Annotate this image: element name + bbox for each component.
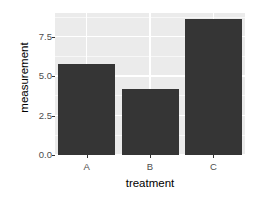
plot-panel xyxy=(55,13,245,155)
bar-a xyxy=(58,64,115,156)
x-tick-label-a: A xyxy=(67,161,107,173)
y-tick-label-0: 0.0 xyxy=(22,150,52,160)
bar-b xyxy=(122,89,179,155)
y-tick-mark-0 xyxy=(52,155,55,156)
x-tick-label-b: B xyxy=(130,161,170,173)
x-tick-label-c: C xyxy=(193,161,233,173)
y-tick-label-1: 2.5 xyxy=(22,111,52,121)
bar-c xyxy=(185,19,242,155)
y-tick-label-3: 7.5 xyxy=(22,32,52,42)
y-tick-label-2: 5.0 xyxy=(22,71,52,81)
x-tick-mark-2 xyxy=(213,155,214,158)
x-axis-title: treatment xyxy=(55,177,245,189)
x-tick-mark-0 xyxy=(87,155,88,158)
bar-chart: measurement 0.02.55.07.5 ABC treatment xyxy=(0,0,265,204)
x-tick-mark-1 xyxy=(150,155,151,158)
